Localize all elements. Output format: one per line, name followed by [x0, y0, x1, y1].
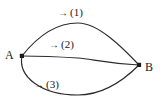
path-label-2: → (2) — [49, 39, 74, 50]
node-dot-b — [137, 63, 141, 67]
right-arrow-icon: → — [58, 7, 68, 17]
right-arrow-icon: → — [34, 79, 44, 89]
node-label-b: B — [145, 61, 153, 73]
figure-container: A B → (1) → (2) → (3) — [0, 0, 162, 105]
path-label-1: → (1) — [58, 7, 83, 18]
path-label-3: → (3) — [34, 79, 59, 90]
path-curve-2 — [22, 56, 139, 65]
node-label-a: A — [5, 49, 14, 61]
right-arrow-icon: → — [49, 39, 59, 49]
node-dot-a — [20, 54, 24, 58]
path-label-3-text: (3) — [46, 79, 59, 90]
path-label-2-text: (2) — [61, 39, 74, 50]
path-label-1-text: (1) — [70, 7, 83, 18]
